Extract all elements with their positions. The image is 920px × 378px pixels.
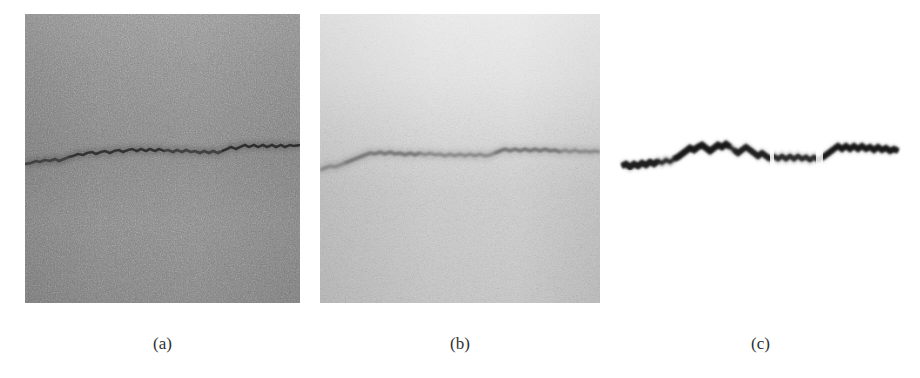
- panel-a-crack-line: [25, 14, 300, 303]
- caption-panel-b: (b): [320, 334, 600, 354]
- panel-c-edge-curve: [618, 14, 903, 303]
- figure-panel-row: (a) (b) (c): [0, 0, 920, 378]
- panel-c-extracted-edge: [618, 14, 903, 303]
- caption-panel-c: (c): [618, 334, 903, 354]
- panel-b-processed-image: [320, 14, 600, 303]
- caption-panel-a: (a): [25, 334, 300, 354]
- panel-b-crack-line: [320, 14, 600, 303]
- panel-a-original-image: [25, 14, 300, 303]
